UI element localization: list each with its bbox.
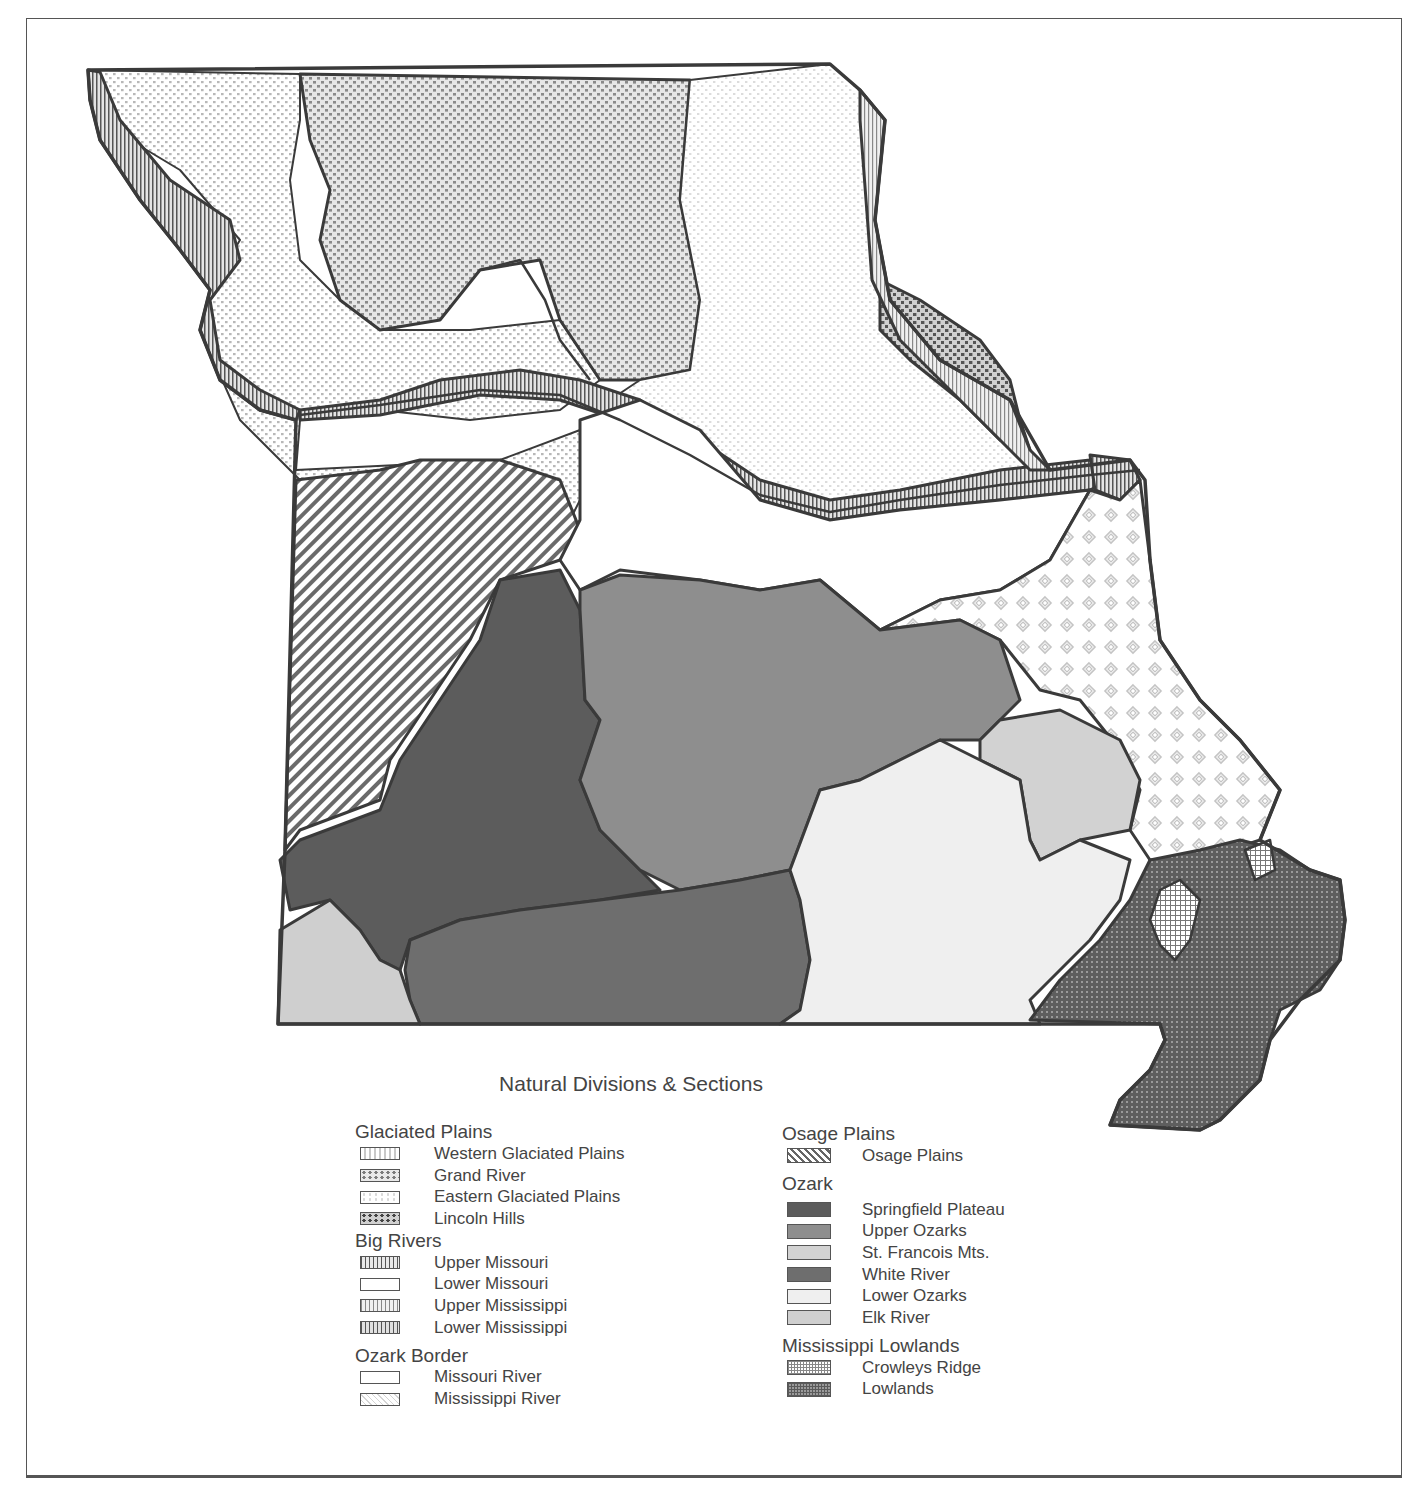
legend-division-mississippi-lowlands: Mississippi Lowlands bbox=[782, 1335, 1005, 1357]
legend-division-ozark-border: Ozark Border bbox=[355, 1345, 625, 1367]
swatch-faint-dots-icon bbox=[360, 1191, 400, 1204]
legend-label: White River bbox=[862, 1265, 950, 1285]
swatch-solid-light-gray-icon bbox=[787, 1245, 831, 1260]
legend-entry-lower-ozarks: Lower Ozarks bbox=[782, 1285, 1005, 1307]
legend-label: Upper Mississippi bbox=[434, 1296, 567, 1316]
legend-label: Lower Mississippi bbox=[434, 1318, 567, 1338]
swatch-blank-icon bbox=[360, 1371, 400, 1384]
legend-label: Lowlands bbox=[862, 1379, 934, 1399]
legend-label: Mississippi River bbox=[434, 1389, 561, 1409]
legend-label: Crowleys Ridge bbox=[862, 1358, 981, 1378]
legend-entry-lincoln-hills: Lincoln Hills bbox=[355, 1208, 625, 1230]
legend-label: Upper Missouri bbox=[434, 1253, 548, 1273]
swatch-solid-very-light-gray-icon bbox=[787, 1289, 831, 1304]
swatch-heavy-vertical-lines-icon bbox=[360, 1321, 400, 1334]
legend-label: Springfield Plateau bbox=[862, 1200, 1005, 1220]
legend-right-column: Osage Plains Osage Plains Ozark Springfi… bbox=[782, 1123, 1005, 1400]
legend-label: Lincoln Hills bbox=[434, 1209, 525, 1229]
legend-label: Grand River bbox=[434, 1166, 526, 1186]
legend-entry-ozark-border-missouri-river: Missouri River bbox=[355, 1367, 625, 1389]
legend-entry-white-river: White River bbox=[782, 1264, 1005, 1286]
swatch-heavy-dots-icon bbox=[360, 1212, 400, 1225]
legend-entry-western-glaciated-plains: Western Glaciated Plains bbox=[355, 1143, 625, 1165]
swatch-light-dots-icon bbox=[360, 1147, 400, 1160]
legend-entry-elk-river: Elk River bbox=[782, 1307, 1005, 1329]
swatch-light-vertical-lines-icon bbox=[360, 1299, 400, 1312]
swatch-blank-icon bbox=[360, 1278, 400, 1291]
swatch-medium-dots-icon bbox=[360, 1169, 400, 1182]
legend-label: Elk River bbox=[862, 1308, 930, 1328]
legend-entry-lower-mississippi: Lower Mississippi bbox=[355, 1317, 625, 1339]
legend-label: Lower Missouri bbox=[434, 1274, 548, 1294]
swatch-diamond-lattice-icon bbox=[360, 1393, 400, 1406]
swatch-solid-medium-gray-icon bbox=[787, 1224, 831, 1239]
swatch-solid-dark-medium-gray-icon bbox=[787, 1267, 831, 1282]
legend-entry-crowleys-ridge: Crowleys Ridge bbox=[782, 1357, 1005, 1379]
legend-entry-upper-ozarks: Upper Ozarks bbox=[782, 1220, 1005, 1242]
missouri-natural-divisions-map bbox=[0, 0, 1416, 1496]
legend-entry-osage-plains: Osage Plains bbox=[782, 1145, 1005, 1167]
legend-entry-ozark-border-mississippi-river: Mississippi River bbox=[355, 1388, 625, 1410]
swatch-heavy-vertical-lines-icon bbox=[360, 1256, 400, 1269]
legend-label: Lower Ozarks bbox=[862, 1286, 967, 1306]
swatch-solid-light-medium-gray-icon bbox=[787, 1310, 831, 1325]
legend-entry-grand-river: Grand River bbox=[355, 1165, 625, 1187]
swatch-dark-grid-icon bbox=[787, 1382, 831, 1397]
legend-label: St. Francois Mts. bbox=[862, 1243, 990, 1263]
swatch-light-grid-icon bbox=[787, 1360, 831, 1375]
legend-division-ozark: Ozark bbox=[782, 1173, 1005, 1195]
legend-entry-upper-mississippi: Upper Mississippi bbox=[355, 1295, 625, 1317]
legend-label: Osage Plains bbox=[862, 1146, 963, 1166]
legend-division-glaciated-plains: Glaciated Plains bbox=[355, 1121, 625, 1143]
legend-division-big-rivers: Big Rivers bbox=[355, 1230, 625, 1252]
legend-entry-eastern-glaciated-plains: Eastern Glaciated Plains bbox=[355, 1186, 625, 1208]
legend-title: Natural Divisions & Sections bbox=[0, 1072, 1262, 1096]
legend-label: Upper Ozarks bbox=[862, 1221, 967, 1241]
legend-entry-lowlands: Lowlands bbox=[782, 1379, 1005, 1401]
swatch-diagonal-hatch-icon bbox=[787, 1148, 831, 1163]
legend-entry-st-francois-mts: St. Francois Mts. bbox=[782, 1242, 1005, 1264]
legend-label: Western Glaciated Plains bbox=[434, 1144, 625, 1164]
legend-entry-lower-missouri: Lower Missouri bbox=[355, 1273, 625, 1295]
swatch-solid-dark-gray-icon bbox=[787, 1202, 831, 1217]
legend-label: Missouri River bbox=[434, 1367, 542, 1387]
legend-division-osage-plains: Osage Plains bbox=[782, 1123, 1005, 1145]
legend-entry-upper-missouri: Upper Missouri bbox=[355, 1252, 625, 1274]
legend-entry-springfield-plateau: Springfield Plateau bbox=[782, 1199, 1005, 1221]
legend-label: Eastern Glaciated Plains bbox=[434, 1187, 620, 1207]
legend-left-column: Glaciated Plains Western Glaciated Plain… bbox=[355, 1121, 625, 1410]
